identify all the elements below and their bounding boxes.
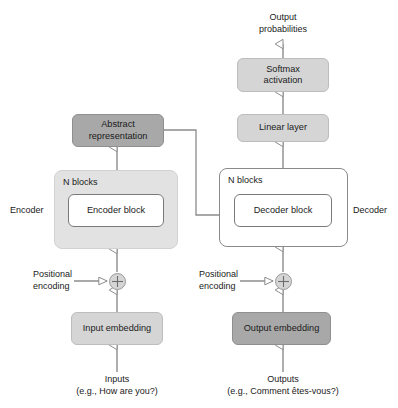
abstract-line2: representation — [89, 131, 148, 142]
decoder-block-label: Decoder block — [254, 205, 313, 216]
plus-icon — [276, 274, 291, 289]
output-embedding-label: Output embedding — [244, 323, 320, 334]
linear-layer-label: Linear layer — [259, 122, 307, 133]
encoder-block-label: Encoder block — [87, 205, 145, 216]
output-probabilities-label: Output probabilities — [249, 12, 317, 35]
outputs-label: Outputs (e.g., Comment êtes-vous?) — [193, 374, 373, 397]
softmax-activation-label: Softmax activation — [264, 64, 303, 86]
pos-enc-right-line2: encoding — [199, 281, 238, 293]
decoder-sum-circle-icon — [275, 273, 292, 290]
plus-icon — [110, 274, 125, 289]
positional-encoding-left-label: Positional encoding — [33, 269, 72, 292]
decoder-side-label: Decoder — [353, 205, 387, 217]
encoder-sum-circle-icon — [109, 273, 126, 290]
pos-enc-right-line1: Positional — [199, 269, 238, 281]
output-probabilities-line1: Output — [249, 12, 317, 24]
abstract-representation-label: Abstract representation — [89, 119, 148, 141]
transformer-architecture-diagram: Output probabilities Softmax activation … — [0, 0, 398, 408]
pos-enc-left-line2: encoding — [33, 281, 72, 293]
input-embedding-label: Input embedding — [83, 323, 151, 334]
softmax-activation-node: Softmax activation — [237, 58, 329, 92]
abstract-line1: Abstract — [89, 119, 148, 130]
inputs-label: Inputs (e.g., How are you?) — [37, 374, 197, 397]
softmax-line1: Softmax — [264, 64, 303, 75]
pos-enc-left-line1: Positional — [33, 269, 72, 281]
inputs-line2: (e.g., How are you?) — [37, 386, 197, 398]
linear-layer-node: Linear layer — [237, 114, 329, 142]
softmax-line2: activation — [264, 75, 303, 86]
decoder-block-node: Decoder block — [234, 194, 332, 227]
encoder-n-blocks-caption: N blocks — [63, 177, 98, 187]
output-probabilities-line2: probabilities — [249, 24, 317, 36]
input-embedding-node: Input embedding — [71, 312, 163, 345]
decoder-n-blocks-caption: N blocks — [228, 175, 263, 185]
encoder-side-label: Encoder — [10, 205, 44, 217]
output-embedding-node: Output embedding — [232, 312, 331, 345]
positional-encoding-right-label: Positional encoding — [199, 269, 238, 292]
outputs-line2: (e.g., Comment êtes-vous?) — [193, 386, 373, 398]
abstract-representation-node: Abstract representation — [72, 114, 164, 147]
outputs-line1: Outputs — [193, 374, 373, 386]
inputs-line1: Inputs — [37, 374, 197, 386]
encoder-block-node: Encoder block — [68, 194, 164, 227]
